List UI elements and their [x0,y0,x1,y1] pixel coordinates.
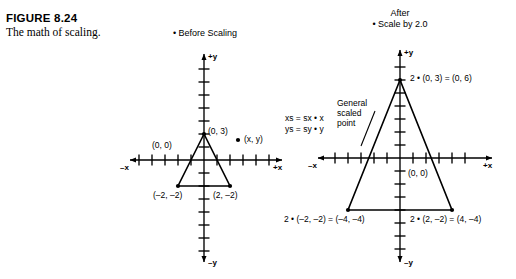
before-vertex-apex [202,132,206,136]
after-vertex-bottom-left [346,208,350,212]
after-label-apex: 2 • (0, 3) = (0, 6) [410,73,472,83]
callout-line-1: General [337,98,367,109]
callout-line-2: scaled [337,108,362,119]
after-label-origin: (0, 0) [408,168,428,178]
formula-y-scale: ys = sy • y [285,124,324,135]
after-label-bottom-right: 2 • (2, –2) = (4, –4) [410,214,481,224]
before-general-point-dot [236,138,240,142]
before-label-general-point: (x, y) [244,134,263,144]
before-label-bottom-left: (–2, –2) [153,190,182,200]
after-label-bottom-left: 2 • (–2, –2) = (–4, –4) [284,214,365,224]
callout-line-3: point [337,118,355,129]
after-vertex-bottom-right [450,208,454,212]
after-vertex-apex [398,78,402,82]
before-axis-label-positive-y: +y [208,52,217,61]
before-label-apex: (0, 3) [208,126,228,136]
before-label-origin: (0, 0) [152,140,172,150]
before-axis-label-negative-y: –y [208,258,217,267]
before-axis-label-negative-x: –x [120,163,129,172]
before-vertex-bottom-right [228,184,232,188]
after-axis-label-positive-y: +y [404,48,413,57]
after-axis-label-negative-y: –y [404,258,413,267]
callout-leader-line [361,111,375,146]
formula-x-scale: xs = sx • x [285,113,324,124]
before-axis-label-positive-x: +x [273,163,282,172]
before-vertex-bottom-left [176,184,180,188]
after-axis-label-negative-x: –x [308,161,317,170]
before-label-bottom-right: (2, –2) [213,190,238,200]
before-axes [130,54,282,262]
figure-page: FIGURE 8.24 The math of scaling. • Befor… [0,0,516,279]
after-axis-label-positive-x: +x [483,161,492,170]
